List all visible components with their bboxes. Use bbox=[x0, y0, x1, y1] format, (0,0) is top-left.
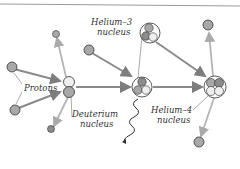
helium-3-nucleus bbox=[132, 77, 152, 97]
label-helium4-2: nucleus bbox=[157, 115, 191, 125]
gamma-ray-wave bbox=[124, 99, 138, 143]
label-helium3-1: Helium–3 bbox=[90, 17, 132, 27]
top-rule bbox=[0, 4, 240, 6]
label-helium4-1: Helium–4 bbox=[150, 105, 192, 115]
arrow-proton1-to-deuterium bbox=[14, 69, 60, 81]
arrow-proton2-to-deuterium bbox=[16, 92, 60, 109]
emitted-neutrino bbox=[48, 126, 55, 133]
arrow-helium3b-to-helium4 bbox=[156, 42, 205, 76]
arrow-emitted-proton-top bbox=[209, 33, 213, 76]
label-protons: Protons bbox=[23, 83, 58, 93]
arrow-emitted-proton-bottom bbox=[201, 98, 214, 136]
deuterium-nucleus bbox=[64, 77, 75, 98]
proton-2 bbox=[10, 105, 20, 115]
label-deuterium-1: Deuterium bbox=[71, 109, 118, 119]
label-deuterium-2: nucleus bbox=[80, 119, 114, 129]
emitted-proton-top bbox=[203, 20, 213, 30]
fusion-diagram: Protons Deuterium nucleus Helium–3 nucle… bbox=[0, 0, 240, 169]
emitted-proton-bottom bbox=[194, 137, 204, 147]
proton-3 bbox=[84, 45, 94, 55]
proton-1 bbox=[7, 62, 17, 72]
arrow-proton-to-helium3 bbox=[92, 53, 131, 76]
arrow-neutrino bbox=[54, 97, 68, 126]
emitted-positron bbox=[53, 31, 60, 38]
arrow-positron bbox=[57, 38, 66, 77]
helium-3-nucleus-incoming bbox=[140, 23, 160, 43]
helium-4-nucleus bbox=[204, 76, 226, 98]
label-helium3-2: nucleus bbox=[97, 27, 131, 37]
